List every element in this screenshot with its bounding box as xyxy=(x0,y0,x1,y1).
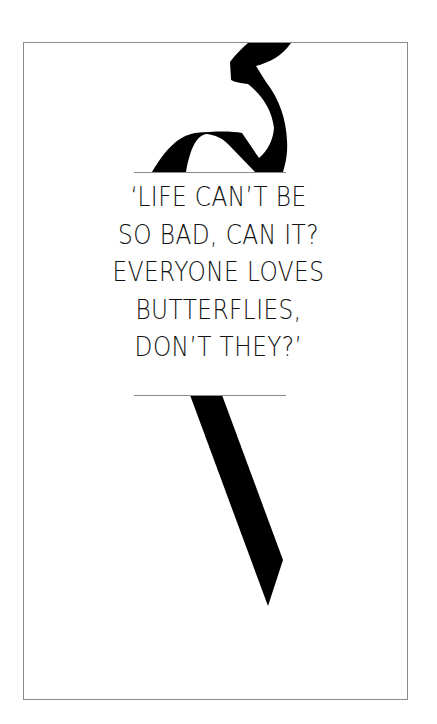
ribbon-bottom-strip xyxy=(190,395,283,606)
quote-line-1: ‘LIFE CAN’T BE xyxy=(82,178,355,216)
ribbon-top-curl xyxy=(152,43,291,172)
top-divider xyxy=(134,172,286,173)
quote-line-3: EVERYONE LOVES xyxy=(82,253,355,291)
quote-line-2: SO BAD, CAN IT? xyxy=(82,216,355,254)
quote-text: ‘LIFE CAN’T BE SO BAD, CAN IT? EVERYONE … xyxy=(82,178,355,366)
quote-line-5: DON’T THEY?’ xyxy=(82,328,355,366)
quote-line-4: BUTTERFLIES, xyxy=(82,291,355,329)
bottom-divider xyxy=(134,395,286,396)
